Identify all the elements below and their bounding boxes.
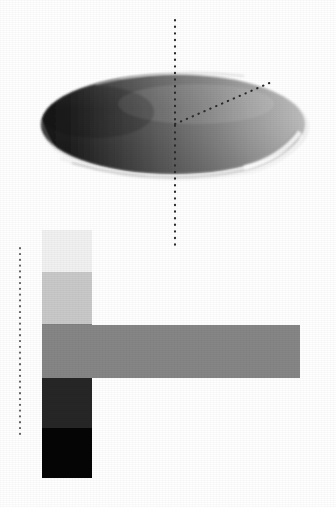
scale-band-1-lightest <box>42 230 92 272</box>
scale-band-5-black <box>42 428 92 478</box>
figure-root <box>0 0 336 507</box>
ellipsoid-left-core-shadow <box>38 86 154 138</box>
horizontal-grayscale-bar <box>42 325 300 378</box>
scale-band-4-dark <box>42 378 92 428</box>
scale-band-2-light <box>42 272 92 324</box>
figure-canvas <box>0 0 336 507</box>
shaded-oblate-ellipsoid <box>38 72 309 179</box>
